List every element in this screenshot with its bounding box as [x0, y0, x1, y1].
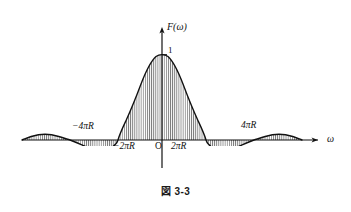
peak-value-label: 1	[168, 46, 173, 55]
tick-label-4pi-r: 4πR	[241, 121, 256, 131]
origin-label: O	[155, 142, 162, 152]
x-axis-label: ω	[327, 134, 334, 144]
tick-label-2pi-r: 2πR	[171, 142, 186, 152]
figure-container: F(ω) 1 ω −4πR −2πR O 2πR 4πR 図 3-3	[0, 0, 351, 212]
tick-label-minus-4pi-r: −4πR	[72, 122, 94, 132]
figure-caption: 図 3-3	[0, 183, 351, 198]
y-axis-label: F(ω)	[167, 22, 187, 32]
tick-label-minus-2pi-r: −2πR	[113, 142, 135, 152]
